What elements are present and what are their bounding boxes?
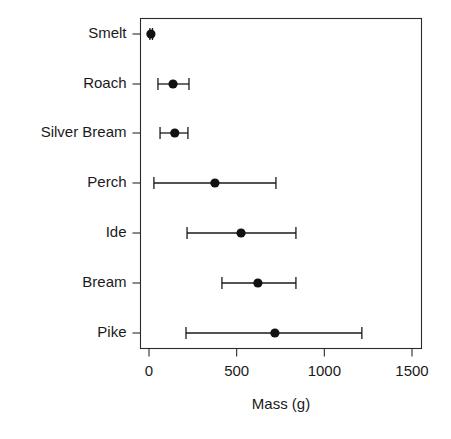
mean-marker-smelt (146, 29, 155, 38)
mean-marker-pike (270, 328, 279, 337)
x-tick-label-1500: 1500 (395, 362, 428, 379)
mean-marker-roach (168, 79, 177, 88)
category-label-bream: Bream (82, 273, 126, 290)
mean-marker-bream (253, 278, 262, 287)
x-tick-label-0: 0 (145, 362, 153, 379)
category-label-smelt: Smelt (88, 24, 127, 41)
category-label-perch: Perch (87, 173, 126, 190)
mean-marker-ide (236, 228, 245, 237)
chart-container: SmeltRoachSilver BreamPerchIdeBreamPike … (0, 0, 451, 439)
mean-marker-perch (210, 178, 219, 187)
category-label-pike: Pike (97, 323, 126, 340)
mass-by-species-dot-plot: SmeltRoachSilver BreamPerchIdeBreamPike … (0, 0, 451, 439)
mean-marker-silver-bream (170, 128, 179, 137)
category-label-roach: Roach (83, 74, 126, 91)
category-label-silver-bream: Silver Bream (41, 123, 127, 140)
x-tick-label-500: 500 (224, 362, 249, 379)
category-label-ide: Ide (106, 223, 127, 240)
x-axis-title: Mass (g) (252, 395, 310, 412)
x-tick-label-1000: 1000 (308, 362, 341, 379)
